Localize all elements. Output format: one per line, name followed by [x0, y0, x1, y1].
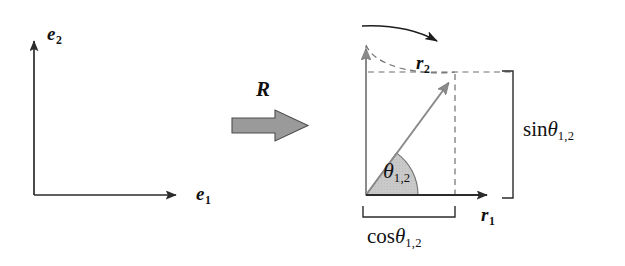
- axis-label-e2-subscript: 2: [56, 34, 62, 47]
- sin-measure-symbol: θ: [548, 117, 558, 141]
- rotation-operator-arrow: [232, 110, 308, 141]
- cos-measure-label: cosθ1,2: [367, 226, 422, 250]
- cos-measure-function: cos: [367, 224, 395, 248]
- angle-label-theta-subscript: 1,2: [394, 171, 411, 185]
- cos-measure-symbol: θ: [395, 224, 405, 248]
- angle-label-theta: θ1,2: [383, 160, 410, 185]
- axis-label-e1-subscript: 1: [205, 194, 211, 207]
- axis-label-e1-symbol: e: [196, 183, 204, 204]
- vector-label-r2-symbol: r: [416, 52, 423, 73]
- rotation-sweep-arrow: [362, 26, 437, 41]
- cos-measure-subscript: 1,2: [405, 236, 421, 250]
- sin-bracket: [502, 71, 513, 198]
- rotation-figure: e2 e1 R r2 r1 θ1,2 cosθ1,2 sinθ1,2: [0, 0, 625, 266]
- vector-label-r1-symbol: r: [481, 204, 488, 225]
- sin-measure-label: sinθ1,2: [523, 119, 574, 143]
- vector-label-r2-subscript: 2: [424, 63, 430, 76]
- vector-label-r1: r1: [481, 205, 495, 228]
- vector-label-r1-subscript: 1: [489, 215, 495, 228]
- vector-label-r2: r2: [416, 53, 430, 76]
- sin-measure-function: sin: [523, 117, 548, 141]
- axis-label-e2: e2: [47, 24, 62, 47]
- guide-rotation-arc-dashed: [366, 45, 455, 73]
- angle-label-theta-symbol: θ: [383, 158, 394, 183]
- axis-label-e1: e1: [196, 184, 211, 207]
- sin-measure-subscript: 1,2: [558, 129, 574, 143]
- rotation-operator-label: R: [256, 79, 270, 100]
- rotated-basis-frame: [362, 26, 513, 217]
- original-basis-frame: [34, 41, 176, 195]
- block-arrow-shape: [232, 110, 308, 141]
- cos-bracket: [363, 206, 455, 217]
- axis-label-e2-symbol: e: [47, 23, 55, 44]
